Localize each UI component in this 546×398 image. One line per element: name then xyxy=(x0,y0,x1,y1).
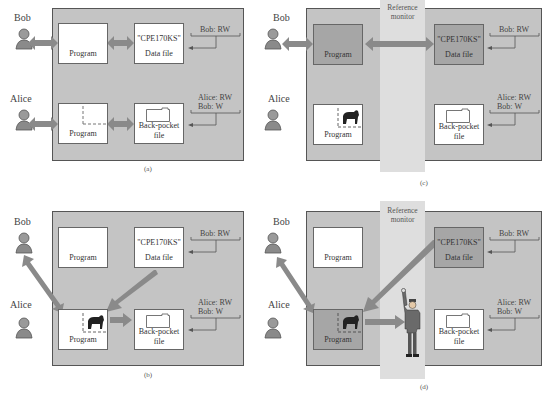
dashed-slot-icon xyxy=(82,106,108,128)
bob-label: Bob xyxy=(14,216,31,227)
reference-monitor-label: Reference monitor xyxy=(380,206,425,224)
back-pocket-file-box: Back-pocket file xyxy=(134,103,184,144)
folder-icon xyxy=(446,108,470,123)
acl-back-pocket: Alice: RW Bob: W xyxy=(198,298,232,316)
caption-a: (a) xyxy=(144,165,152,173)
folder-icon xyxy=(146,313,170,328)
back-pocket-label: Back-pocket xyxy=(435,122,483,132)
bob-program-box: Program xyxy=(313,24,363,65)
bob-program-box: Program xyxy=(58,23,108,64)
back-pocket-label: Back-pocket xyxy=(135,121,183,131)
folder-icon xyxy=(446,313,470,328)
data-file-box: "CPE170KS" Data file xyxy=(434,227,484,268)
double-arrow-icon xyxy=(365,37,434,51)
trojan-horse-icon xyxy=(337,108,363,130)
bob-program-box: Program xyxy=(313,227,363,268)
program-label: Program xyxy=(59,253,107,263)
caption-b: (b) xyxy=(144,371,152,379)
reference-monitor-label: Reference monitor xyxy=(380,3,425,21)
acl-bracket-icon xyxy=(188,33,242,51)
bob-person-icon xyxy=(269,27,283,49)
acl-bracket-icon xyxy=(487,33,541,51)
data-file-label: Data file xyxy=(435,50,483,60)
data-file-name: "CPE170KS" xyxy=(435,35,483,45)
acl-back-pocket: Alice: RW Bob: W xyxy=(497,93,531,111)
back-pocket-label: Back-pocket xyxy=(135,327,183,337)
alice-person-icon xyxy=(12,316,34,338)
alice-person-icon xyxy=(269,108,283,130)
acl-bracket-icon xyxy=(188,237,242,255)
bob-label: Bob xyxy=(14,12,31,23)
acl-bracket-icon xyxy=(487,110,541,128)
alice-program-box: Program xyxy=(58,103,108,144)
back-pocket-label-2: file xyxy=(435,132,483,142)
reference-monitor-line1: Reference xyxy=(380,206,425,215)
program-label: Program xyxy=(314,130,362,140)
back-pocket-file-box: Back-pocket file xyxy=(434,104,484,145)
alice-label: Alice xyxy=(268,93,290,104)
acl-bracket-icon xyxy=(188,315,242,333)
trojan-horse-icon xyxy=(82,313,108,335)
alice-label: Alice xyxy=(10,93,32,104)
back-pocket-label-2: file xyxy=(135,131,183,141)
acl-alice-rw: Alice: RW xyxy=(497,298,531,307)
data-file-label: Data file xyxy=(135,253,183,263)
reference-monitor-line2: monitor xyxy=(380,215,425,224)
caption-c: (c) xyxy=(420,179,428,187)
double-arrow-icon xyxy=(28,36,58,50)
alice-program-box: Program xyxy=(58,309,108,350)
program-label: Program xyxy=(314,253,362,263)
read-arrow-icon xyxy=(106,270,158,312)
back-pocket-file-box: Back-pocket file xyxy=(134,309,184,350)
double-arrow-icon xyxy=(107,36,134,50)
alice-program-box: Program xyxy=(313,309,363,350)
data-file-box: "CPE170KS" Data file xyxy=(434,24,484,65)
trojan-horse-icon xyxy=(337,313,363,335)
reference-monitor-line1: Reference xyxy=(380,3,425,12)
acl-bracket-icon xyxy=(487,237,541,255)
reference-monitor-band xyxy=(380,0,425,172)
back-pocket-label-2: file xyxy=(135,337,183,347)
double-arrow-icon xyxy=(107,117,134,131)
alice-person-icon xyxy=(269,316,283,338)
double-arrow-icon xyxy=(28,117,58,131)
data-file-box: "CPE170KS" Data file xyxy=(134,23,184,64)
program-label: Program xyxy=(59,335,107,345)
acl-bracket-icon xyxy=(487,315,541,333)
data-file-box: "CPE170KS" Data file xyxy=(134,227,184,268)
data-file-name: "CPE170KS" xyxy=(135,34,183,44)
reference-monitor-line2: monitor xyxy=(380,12,425,21)
write-arrow-icon xyxy=(110,313,132,327)
bob-label: Bob xyxy=(273,216,290,227)
bob-person-icon xyxy=(12,231,34,253)
acl-bracket-icon xyxy=(188,110,242,128)
leak-arrow-icon xyxy=(275,257,315,313)
data-file-name: "CPE170KS" xyxy=(135,238,183,248)
program-label: Program xyxy=(314,50,362,60)
back-pocket-file-box: Back-pocket file xyxy=(434,309,484,350)
program-label: Program xyxy=(59,49,107,59)
acl-alice-rw: Alice: RW xyxy=(198,298,232,307)
acl-back-pocket: Alice: RW Bob: W xyxy=(497,298,531,316)
back-pocket-label-2: file xyxy=(435,337,483,347)
double-arrow-icon xyxy=(282,37,313,51)
program-label: Program xyxy=(59,129,107,139)
guard-figure-icon xyxy=(398,289,422,359)
data-file-label: Data file xyxy=(135,49,183,59)
bob-person-icon xyxy=(269,231,283,253)
bob-program-box: Program xyxy=(58,227,108,268)
data-file-label: Data file xyxy=(435,253,483,263)
acl-back-pocket: Alice: RW Bob: W xyxy=(198,93,232,111)
acl-alice-rw: Alice: RW xyxy=(198,93,232,102)
alice-program-box: Program xyxy=(313,104,363,145)
folder-icon xyxy=(146,107,170,122)
back-pocket-label: Back-pocket xyxy=(435,327,483,337)
bob-label: Bob xyxy=(273,12,290,23)
program-label: Program xyxy=(314,335,362,345)
caption-d: (d) xyxy=(420,383,428,391)
acl-alice-rw: Alice: RW xyxy=(497,93,531,102)
data-file-name: "CPE170KS" xyxy=(435,238,483,248)
